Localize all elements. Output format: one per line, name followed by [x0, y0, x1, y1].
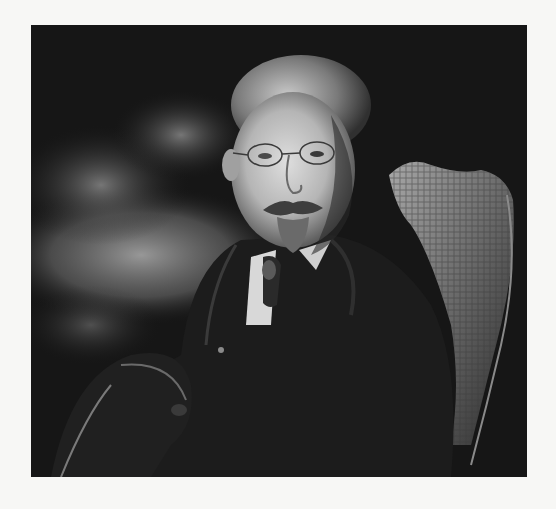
portrait-photograph: [31, 25, 527, 477]
